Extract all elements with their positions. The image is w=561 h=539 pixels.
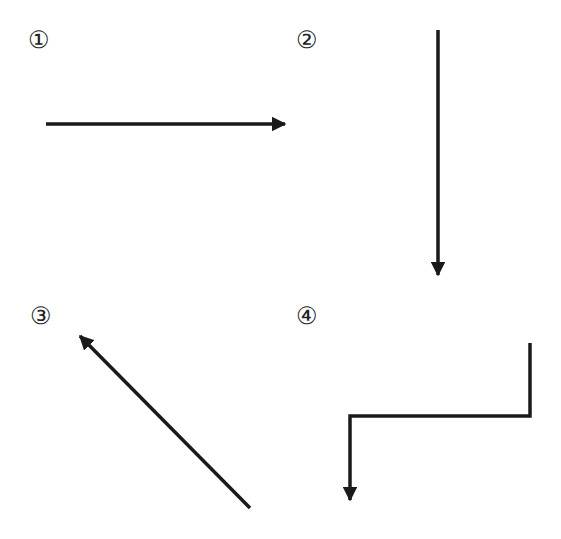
arrows-diagram <box>0 0 561 539</box>
bent-arrow-down-icon <box>350 343 530 500</box>
arrow-up-left-icon <box>80 336 250 508</box>
